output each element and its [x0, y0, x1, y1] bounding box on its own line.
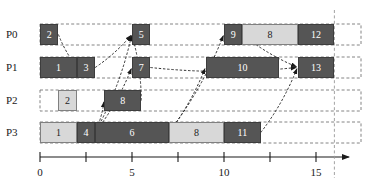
- task-block[interactable]: 8: [104, 90, 141, 111]
- lane-label-p2: P2: [6, 95, 18, 106]
- dependency-arrow: [95, 36, 131, 133]
- lane-label-p3: P3: [6, 127, 18, 138]
- dependency-arrows: [58, 35, 296, 133]
- task-block[interactable]: 1: [40, 57, 77, 78]
- task-block[interactable]: 10: [206, 57, 280, 78]
- dependency-arrow: [169, 36, 223, 133]
- task-block[interactable]: 13: [298, 57, 335, 78]
- axis-tick-label: 0: [25, 167, 55, 178]
- task-block[interactable]: 5: [132, 24, 150, 45]
- dependency-arrow: [95, 36, 131, 68]
- time-axis: [40, 152, 349, 162]
- task-block[interactable]: 8: [169, 122, 224, 143]
- task-block[interactable]: 9: [224, 24, 242, 45]
- task-block[interactable]: 11: [224, 122, 261, 143]
- task-block[interactable]: 1: [40, 122, 77, 143]
- axis-tick-label: 5: [117, 167, 147, 178]
- axis-tick-label: 10: [209, 167, 239, 178]
- lane-outline-p2: [40, 90, 361, 111]
- axis-tick-label: 15: [301, 167, 331, 178]
- task-block[interactable]: 6: [95, 122, 169, 143]
- lane-label-p1: P1: [6, 62, 18, 73]
- task-block[interactable]: 8: [242, 24, 297, 45]
- task-block[interactable]: 2: [58, 90, 76, 111]
- task-block[interactable]: 2: [40, 24, 58, 45]
- gantt-diagram: P0P1P2P3 259812137101328146811 051015: [0, 0, 381, 186]
- lane-label-p0: P0: [6, 29, 18, 40]
- task-block[interactable]: 7: [132, 57, 150, 78]
- task-block[interactable]: 4: [77, 122, 95, 143]
- task-block[interactable]: 12: [298, 24, 335, 45]
- task-block[interactable]: 3: [77, 57, 95, 78]
